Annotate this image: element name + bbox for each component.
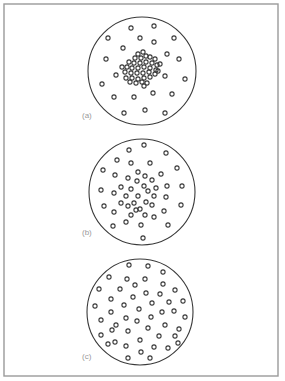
panel-label: (c) <box>82 352 92 361</box>
figure-canvas: (a)(b)(c) <box>0 0 285 381</box>
panel-label: (b) <box>82 228 92 237</box>
panel-label: (a) <box>82 111 92 120</box>
